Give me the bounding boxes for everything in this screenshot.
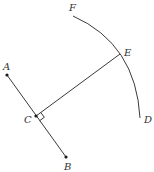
point-a [5,73,8,76]
geometry-diagram: A C B E F D [0,0,154,172]
point-c [34,114,37,117]
right-angle-marker [40,113,45,121]
label-a: A [2,61,10,72]
diagram-canvas: A C B E F D [0,0,154,172]
label-b: B [63,161,71,172]
arc-fd [73,16,140,118]
label-c: C [24,114,32,125]
label-f: F [68,2,77,13]
segment-ce [36,54,120,116]
point-b [64,155,67,158]
label-e: E [123,47,132,58]
label-d: D [143,114,152,125]
